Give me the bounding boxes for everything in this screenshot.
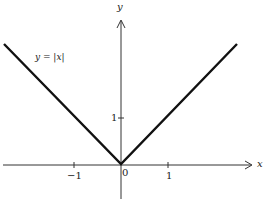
x-tick-label-neg1: −1 xyxy=(67,171,82,181)
x-axis-label: x xyxy=(257,159,263,169)
x-tick-label-1: 1 xyxy=(166,171,172,181)
origin-label: 0 xyxy=(122,168,128,178)
function-label: y = |x| xyxy=(35,53,65,62)
y-axis-label: y xyxy=(117,2,123,12)
plot-canvas xyxy=(0,0,266,212)
y-tick-label-1: 1 xyxy=(111,113,117,123)
